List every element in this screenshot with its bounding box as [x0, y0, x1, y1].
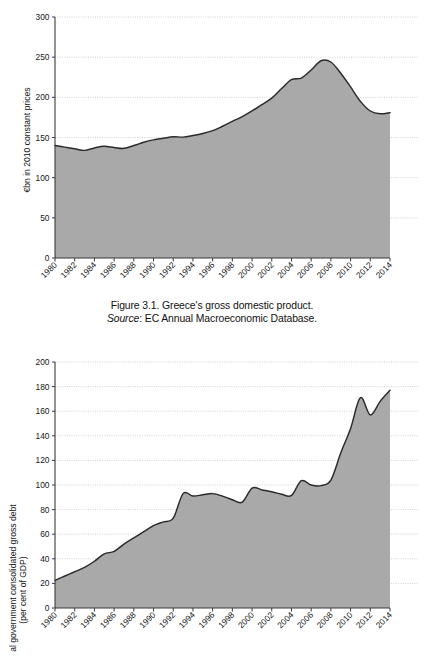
x-tick-label: 1990 [137, 260, 157, 280]
debt-y-tick-labels: 020406080100120140160180200 [36, 357, 50, 613]
debt-area-chart: 020406080100120140160180200 198019821984… [0, 340, 424, 652]
y-tick-label: 120 [36, 455, 50, 465]
x-tick-label: 1986 [98, 260, 118, 280]
debt-y-axis-title-line1: General government consolidated gross de… [8, 504, 18, 652]
x-tick-label: 1992 [157, 260, 177, 280]
x-tick-label: 1988 [117, 260, 137, 280]
x-tick-label: 2000 [236, 260, 256, 280]
x-tick-label: 2004 [275, 260, 295, 280]
x-tick-label: 1988 [117, 610, 137, 630]
x-tick-label: 2006 [295, 260, 315, 280]
caption-source-label: Source [107, 313, 139, 324]
y-tick-label: 300 [36, 12, 50, 22]
y-tick-label: 140 [36, 431, 50, 441]
figure-caption: Figure 3.1. Greece's gross domestic prod… [0, 299, 424, 325]
x-tick-label: 1984 [78, 610, 98, 630]
y-tick-label: 100 [36, 173, 50, 183]
caption-title: Figure 3.1. Greece's gross domestic prod… [0, 299, 424, 312]
x-tick-label: 1982 [58, 260, 78, 280]
x-tick-label: 2010 [334, 610, 354, 630]
figure-gdp: 050100150200250300 198019821984198619881… [0, 0, 424, 335]
y-tick-label: 250 [36, 52, 50, 62]
y-tick-label: 200 [36, 357, 50, 367]
x-tick-label: 2000 [236, 610, 256, 630]
x-tick-label: 2002 [255, 610, 275, 630]
x-tick-label: 2014 [374, 260, 394, 280]
y-tick-label: 150 [36, 133, 50, 143]
y-tick-label: 20 [40, 578, 50, 588]
gdp-area-series [55, 60, 390, 258]
x-tick-label: 2012 [354, 260, 374, 280]
y-tick-label: 100 [36, 480, 50, 490]
x-tick-label: 1990 [137, 610, 157, 630]
y-tick-label: 160 [36, 406, 50, 416]
x-tick-label: 2006 [295, 610, 315, 630]
x-tick-label: 1996 [196, 260, 216, 280]
figure-debt: 020406080100120140160180200 198019821984… [0, 340, 424, 659]
y-tick-label: 60 [40, 529, 50, 539]
x-tick-label: 2008 [315, 260, 335, 280]
debt-area-series [55, 390, 390, 608]
figure-page: 050100150200250300 198019821984198619881… [0, 0, 424, 659]
x-tick-label: 1986 [98, 610, 118, 630]
x-tick-label: 1992 [157, 610, 177, 630]
x-tick-label: 2008 [315, 610, 335, 630]
debt-x-tick-labels: 1980198219841986198819901992199419961998… [39, 610, 394, 630]
x-tick-label: 1998 [216, 610, 236, 630]
y-tick-label: 50 [40, 213, 50, 223]
chart-debt: 020406080100120140160180200 198019821984… [0, 340, 424, 652]
gdp-area-chart: 050100150200250300 198019821984198619881… [0, 0, 424, 300]
caption-source: Source: EC Annual Macroeconomic Database… [0, 312, 424, 325]
x-tick-label: 1982 [58, 610, 78, 630]
x-tick-label: 2004 [275, 610, 295, 630]
caption-source-text: : EC Annual Macroeconomic Database. [139, 313, 317, 324]
x-tick-label: 1984 [78, 260, 98, 280]
chart-gdp: 050100150200250300 198019821984198619881… [0, 0, 424, 300]
gdp-x-tick-labels: 1980198219841986198819901992199419961998… [39, 260, 394, 280]
x-tick-label: 1980 [39, 610, 59, 630]
x-tick-label: 1994 [177, 260, 197, 280]
x-tick-label: 1996 [196, 610, 216, 630]
y-tick-label: 180 [36, 382, 50, 392]
gdp-y-axis-title: €bn in 2010 constant prices [22, 87, 32, 192]
y-tick-label: 80 [40, 505, 50, 515]
x-tick-label: 2014 [374, 610, 394, 630]
debt-y-axis-title-line2: (per cent of GDP) [18, 556, 28, 623]
gdp-y-tick-labels: 050100150200250300 [36, 12, 50, 263]
debt-y-axis-title: General government consolidated gross de… [8, 504, 28, 652]
y-tick-label: 200 [36, 92, 50, 102]
x-tick-label: 2012 [354, 610, 374, 630]
x-tick-label: 1998 [216, 260, 236, 280]
x-tick-label: 2002 [255, 260, 275, 280]
y-tick-label: 40 [40, 554, 50, 564]
x-tick-label: 1980 [39, 260, 59, 280]
x-tick-label: 1994 [177, 610, 197, 630]
x-tick-label: 2010 [334, 260, 354, 280]
